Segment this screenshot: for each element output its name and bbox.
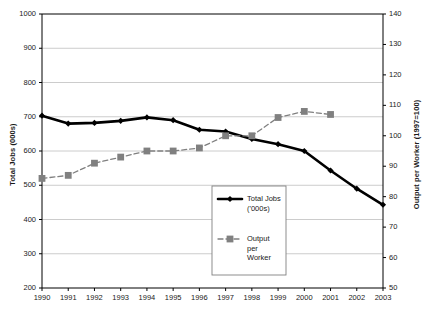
data-point-marker	[170, 148, 177, 155]
y-axis-left-tick: 800	[10, 78, 36, 87]
y-axis-left-tick: 900	[10, 43, 36, 52]
y-axis-left-tick: 200	[10, 283, 36, 292]
data-point-marker	[39, 175, 46, 182]
y-axis-right-tick: 140	[389, 9, 419, 18]
y-axis-left-tick: 400	[10, 215, 36, 224]
data-point-marker	[275, 114, 282, 121]
data-point-marker	[196, 145, 203, 152]
data-point-marker	[248, 132, 255, 139]
y-axis-left-tick: 1000	[10, 9, 36, 18]
chart-container: Total Jobs (000s) Output per Worker (199…	[0, 0, 430, 319]
y-axis-right-tick: 80	[389, 192, 419, 201]
y-axis-right-tick: 110	[389, 100, 419, 109]
data-point-marker	[222, 132, 229, 139]
data-point-marker	[91, 160, 98, 167]
y-axis-left-tick: 600	[10, 146, 36, 155]
legend-marker	[227, 236, 234, 243]
y-axis-right-tick: 70	[389, 222, 419, 231]
data-point-marker	[144, 148, 151, 155]
y-axis-right-tick: 60	[389, 253, 419, 262]
legend-label: Output per Worker	[247, 234, 287, 263]
data-point-marker	[65, 172, 72, 179]
y-axis-right-tick: 120	[389, 70, 419, 79]
data-point-marker	[301, 108, 308, 115]
data-point-marker	[117, 154, 124, 161]
data-point-marker	[327, 111, 334, 118]
y-axis-left-tick: 500	[10, 180, 36, 189]
legend-label: Total Jobs ('000s)	[247, 194, 287, 213]
x-axis-tick: 2003	[368, 293, 398, 302]
plot-area	[0, 0, 430, 319]
y-axis-left-tick: 300	[10, 249, 36, 258]
y-axis-right-tick: 90	[389, 161, 419, 170]
y-axis-right-tick: 100	[389, 131, 419, 140]
y-axis-right-tick: 50	[389, 283, 419, 292]
y-axis-right-tick: 130	[389, 39, 419, 48]
y-axis-left-tick: 700	[10, 112, 36, 121]
